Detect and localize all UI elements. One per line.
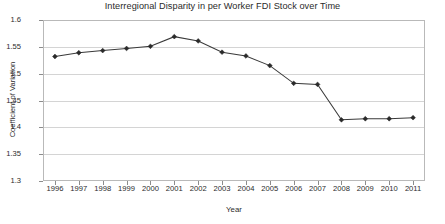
gridline-1-35: [44, 154, 424, 155]
y-tick-label: 1.5: [0, 69, 21, 78]
y-tick-label: 1.45: [0, 96, 21, 105]
x-tick-mark: [150, 181, 151, 185]
x-axis-title: Year: [43, 205, 425, 214]
y-tick-label: 1.3: [0, 176, 21, 185]
y-tick-mark: [39, 74, 43, 75]
x-tick-mark: [294, 181, 295, 185]
y-tick-label: 1.35: [0, 149, 21, 158]
y-tick-label: 1.55: [0, 42, 21, 51]
x-tick-mark: [174, 181, 175, 185]
x-tick-mark: [318, 181, 319, 185]
chart-title: Interregional Disparity in per Worker FD…: [0, 1, 445, 11]
x-tick-mark: [79, 181, 80, 185]
x-tick-mark: [103, 181, 104, 185]
chart-container: Interregional Disparity in per Worker FD…: [0, 0, 445, 224]
x-tick-label: 2011: [393, 184, 433, 193]
x-tick-mark: [127, 181, 128, 185]
y-tick-label: 1.4: [0, 122, 21, 131]
y-tick-mark: [39, 101, 43, 102]
y-tick-mark: [39, 127, 43, 128]
y-tick-mark: [39, 154, 43, 155]
x-tick-mark: [413, 181, 414, 185]
y-tick-mark: [39, 47, 43, 48]
y-tick-mark: [39, 181, 43, 182]
x-tick-mark: [389, 181, 390, 185]
x-tick-mark: [246, 181, 247, 185]
y-tick-mark: [39, 20, 43, 21]
gridline-1-5: [44, 74, 424, 75]
gridline-1-4: [44, 127, 424, 128]
x-tick-mark: [198, 181, 199, 185]
x-tick-mark: [55, 181, 56, 185]
plot-area: [43, 20, 425, 181]
y-tick-label: 1.6: [0, 15, 21, 24]
x-tick-mark: [270, 181, 271, 185]
x-tick-mark: [341, 181, 342, 185]
x-tick-mark: [222, 181, 223, 185]
gridline-1-55: [44, 47, 424, 48]
gridline-1-45: [44, 101, 424, 102]
x-tick-mark: [365, 181, 366, 185]
